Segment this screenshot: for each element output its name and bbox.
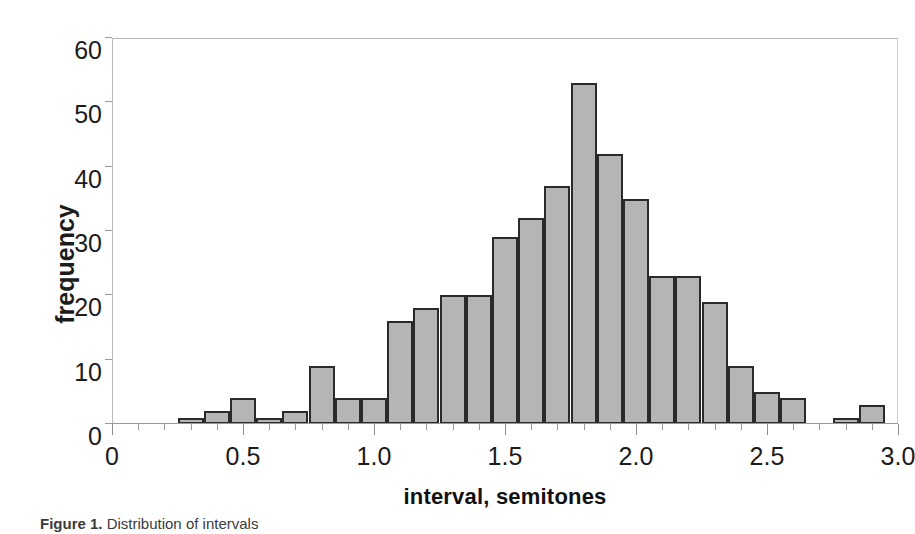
histogram-bar (387, 321, 413, 424)
x-tick-minor (295, 424, 296, 430)
x-tick-major (767, 424, 768, 435)
x-tick-major (112, 424, 113, 435)
y-axis-title: frequency (51, 204, 80, 323)
x-tick-major (374, 424, 375, 435)
x-tick-minor (688, 424, 689, 430)
x-tick-major (243, 424, 244, 435)
x-tick-label: 3.0 (881, 444, 915, 469)
x-tick-minor (400, 424, 401, 430)
y-tick (105, 166, 112, 167)
histogram-bar (230, 398, 256, 424)
x-tick-minor (715, 424, 716, 430)
x-tick-minor (662, 424, 663, 430)
x-tick-minor (793, 424, 794, 430)
x-axis-baseline (112, 423, 898, 424)
x-tick-minor (138, 424, 139, 430)
x-tick-label: 0.5 (226, 444, 261, 469)
x-tick-minor (269, 424, 270, 430)
y-tick (105, 359, 112, 360)
histogram-bar (361, 398, 387, 424)
x-tick-minor (819, 424, 820, 430)
histogram-bar (754, 392, 780, 424)
histogram-bar (309, 366, 335, 424)
x-tick-minor (846, 424, 847, 430)
histogram-bar (859, 405, 885, 424)
x-tick-minor (531, 424, 532, 430)
x-axis-title: interval, semitones (112, 484, 898, 510)
x-tick-minor (217, 424, 218, 430)
y-tick (105, 101, 112, 102)
chart-plot-area: 0102030405060 00.51.01.52.02.53.0 (112, 38, 898, 424)
x-tick-minor (872, 424, 873, 430)
y-tick (105, 37, 112, 38)
x-tick-minor (741, 424, 742, 430)
x-tick-minor (584, 424, 585, 430)
caption-label: Figure 1. (40, 515, 103, 532)
x-tick-label: 1.0 (357, 444, 392, 469)
histogram-bar (544, 186, 570, 424)
histogram-bar (623, 199, 649, 424)
histogram-bar (440, 295, 466, 424)
x-tick-label: 2.0 (619, 444, 654, 469)
figure-caption: Figure 1. Distribution of intervals (40, 515, 880, 534)
x-tick-major (505, 424, 506, 435)
y-tick (105, 423, 112, 424)
x-tick-label: 1.5 (488, 444, 523, 469)
x-tick-label: 2.5 (750, 444, 785, 469)
histogram-bar (597, 154, 623, 424)
x-tick-minor (426, 424, 427, 430)
histogram-bar (413, 308, 439, 424)
x-tick-minor (322, 424, 323, 430)
x-tick-minor (164, 424, 165, 430)
x-tick-minor (453, 424, 454, 430)
histogram-bar (649, 276, 675, 424)
histogram-bar (518, 218, 544, 424)
x-tick-minor (191, 424, 192, 430)
x-tick-minor (557, 424, 558, 430)
histogram-bar (466, 295, 492, 424)
x-tick-minor (348, 424, 349, 430)
caption-text: Distribution of intervals (107, 515, 259, 532)
x-tick-label: 0 (105, 444, 119, 469)
x-tick-minor (610, 424, 611, 430)
x-tick-minor (479, 424, 480, 430)
histogram-bar (780, 398, 806, 424)
x-tick-major (898, 424, 899, 435)
histogram-bar (702, 302, 728, 424)
histogram-bar (728, 366, 754, 424)
histogram-bars (112, 38, 898, 424)
histogram-bar (571, 83, 597, 424)
histogram-bar (492, 237, 518, 424)
histogram-bar (335, 398, 361, 424)
x-tick-major (636, 424, 637, 435)
y-tick (105, 230, 112, 231)
histogram-bar (675, 276, 701, 424)
y-tick (105, 294, 112, 295)
